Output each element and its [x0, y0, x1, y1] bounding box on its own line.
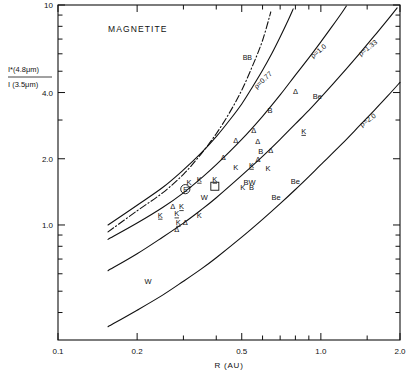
marker-label: Δ: [183, 218, 188, 227]
marker-letter-underline: K: [179, 202, 184, 211]
chart-svg: 0.10.20.51.02.01.02.04.010 ρ=0.77ρ=1.0ρ=…: [0, 0, 413, 374]
marker-label: B: [249, 183, 254, 192]
marker-label: Δ: [221, 153, 226, 162]
marker-label: B: [258, 147, 263, 156]
marker-label: K: [301, 127, 306, 136]
curve-rho-2-0: [108, 82, 400, 326]
x-tick-label: 1.0: [315, 347, 327, 356]
curve-label-rho-0-77: ρ=0.77: [253, 70, 274, 91]
y-tick-label: 2.0: [42, 155, 54, 164]
marker-triangle: Δ: [255, 137, 260, 146]
axis-tick-labels: 0.10.20.51.02.01.02.04.010: [42, 1, 406, 356]
marker-letter: B: [258, 147, 263, 156]
figure-container: 0.10.20.51.02.01.02.04.010 ρ=0.77ρ=1.0ρ=…: [0, 0, 413, 374]
marker-label: K: [240, 183, 245, 192]
x-tick-label: 0.1: [52, 347, 64, 356]
marker-label: K: [158, 211, 163, 220]
marker-letter-underline: K: [249, 161, 254, 170]
marker-letter-underline: K: [158, 211, 163, 220]
data-point-markers: ΔBeBΔKΔΔBΔΔΔKKKKKKBWBeKBEWBeΔKKKKKΔΔW: [144, 87, 322, 287]
marker-label: K: [197, 175, 202, 184]
plot-border: [58, 5, 400, 340]
marker-letter: K: [240, 183, 245, 192]
marker-triangle: Δ: [256, 155, 261, 164]
plot-frame: [58, 5, 400, 340]
curve-label-rho-1-0: ρ=1.0: [309, 42, 328, 60]
marker-label: Δ: [293, 87, 298, 96]
marker-label: Δ: [174, 225, 179, 234]
marker-label: Δ: [251, 126, 256, 135]
marker-label: B: [267, 106, 272, 115]
marker-triangle: Δ: [268, 146, 273, 155]
x-tick-label: 2.0: [394, 347, 406, 356]
x-tick-label: 0.5: [236, 347, 248, 356]
marker-label: W: [201, 193, 209, 202]
marker-label: Be: [291, 177, 300, 186]
curve-label-rho-2-0: ρ=2.0: [359, 112, 378, 129]
y-axis-label-numerator: I*(4.8μm): [8, 65, 39, 74]
marker-label: E: [183, 186, 188, 193]
marker-letter-underline: K: [301, 127, 306, 136]
marker-label: K: [249, 161, 254, 170]
marker-label: Δ: [256, 155, 261, 164]
y-axis-label: I*(4.8μm) I (3.5μm): [8, 65, 52, 89]
marker-letter: K: [233, 163, 238, 172]
curve-label-rho-1-33: ρ=1.33: [357, 38, 379, 58]
marker-label: K: [197, 211, 202, 220]
marker-label: Be: [271, 193, 280, 202]
plot-title: MAGNETITE: [108, 24, 168, 34]
y-tick-label: 1.0: [42, 221, 54, 230]
marker-letter: W: [201, 193, 209, 202]
x-axis-label: R (AU): [214, 361, 243, 370]
marker-letter: W: [144, 277, 152, 286]
curve-rho-1-33: [108, 8, 397, 271]
marker-letter: B: [267, 106, 272, 115]
marker-label: K: [266, 164, 271, 173]
curve-label-BB: BB: [243, 54, 253, 61]
marker-letter: Be: [291, 177, 300, 186]
marker-label: Be: [313, 92, 322, 101]
marker-letter: Be: [271, 193, 280, 202]
marker-label: Δ: [233, 136, 238, 145]
marker-triangle: Δ: [233, 136, 238, 145]
y-axis-label-denominator: I (3.5μm): [8, 80, 39, 89]
marker-triangle: Δ: [174, 225, 179, 234]
marker-label: K: [233, 163, 238, 172]
x-tick-label: 0.2: [132, 347, 144, 356]
marker-letter: K: [266, 164, 271, 173]
marker-triangle: Δ: [293, 87, 298, 96]
y-tick-label: 10: [44, 1, 53, 10]
marker-letter: B: [249, 183, 254, 192]
marker-label: K: [179, 202, 184, 211]
axis-ticks: [58, 5, 400, 340]
marker-letter: K: [197, 211, 202, 220]
marker-label: Δ: [255, 137, 260, 146]
marker-triangle: Δ: [221, 153, 226, 162]
marker-triangle: Δ: [183, 218, 188, 227]
marker-label: Δ: [268, 146, 273, 155]
marker-triangle: Δ: [251, 126, 256, 135]
marker-letter: Be: [313, 92, 322, 101]
y-tick-label: 4.0: [42, 89, 54, 98]
marker-letter-underline: K: [197, 175, 202, 184]
marker-label: W: [144, 277, 152, 286]
curve-BB: [108, 12, 271, 232]
